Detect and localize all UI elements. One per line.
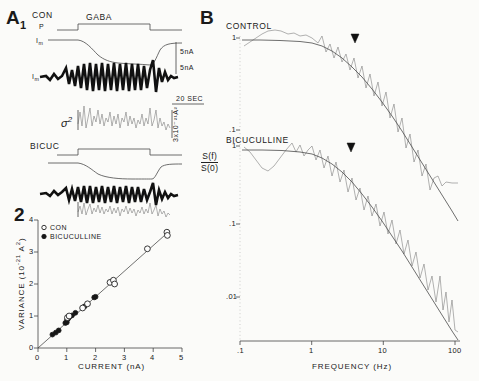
axis-y-ticks-b-upper: [236, 38, 240, 130]
spectrum-control-raw: [244, 30, 458, 190]
spectrum-control-fit: [242, 40, 458, 221]
panel-b-plot: [0, 0, 479, 381]
xtick-b-10: 10: [378, 347, 387, 355]
ytick-b-1-lower: 1: [232, 142, 236, 150]
ytick-b-1-upper: 1: [232, 34, 236, 42]
spectrum-bicuculline-fit: [242, 150, 458, 340]
axis-x-ticks-b: [240, 341, 455, 345]
ytick-b-001-lower: .01: [226, 293, 237, 301]
spectrum-bicuculline-raw: [244, 143, 458, 332]
ytick-b-01-lower: .1: [229, 220, 236, 228]
xtick-b-100: 100: [448, 347, 461, 355]
figure-root: A 1 CON GABA P Im Im σ2 BICUC 5nA 5nA 20…: [0, 0, 479, 381]
xtick-b-1: 1: [309, 347, 313, 355]
cutoff-arrowhead-control: [351, 34, 359, 43]
cutoff-arrowhead-bicuculline: [347, 143, 355, 152]
ytick-b-01-upper: .1: [229, 126, 236, 134]
xtick-b-point1: .1: [237, 347, 244, 355]
axis-y-ticks-b-lower: [236, 146, 240, 297]
